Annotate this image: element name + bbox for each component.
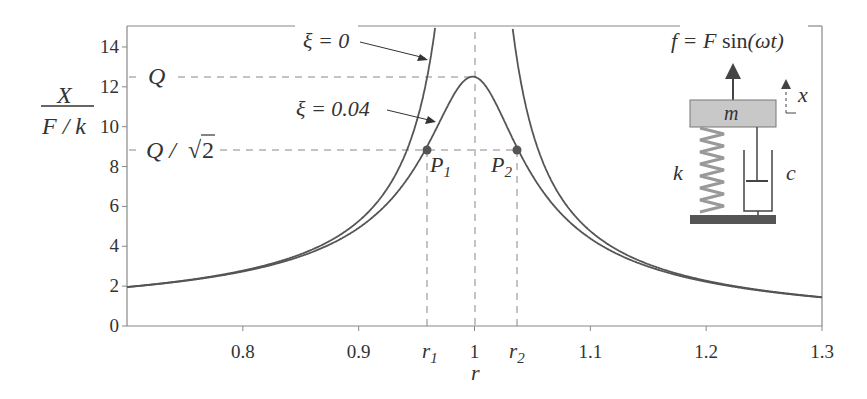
x-tick-label: 1.2 xyxy=(694,341,718,362)
x-label-r1: r1 xyxy=(422,339,438,366)
y-label-denominator: F / k xyxy=(41,113,86,139)
y-tick-label: 12 xyxy=(100,76,119,97)
x-axis-label: r xyxy=(471,360,480,385)
x-tick-label: 1 xyxy=(470,341,480,362)
y-tick-label: 8 xyxy=(110,156,120,177)
curve-label-xi-0: ξ = 0 xyxy=(303,28,349,53)
x-tick-label: 0.9 xyxy=(347,341,371,362)
y-tick-label: 14 xyxy=(100,36,120,57)
spring-label: k xyxy=(673,160,684,185)
y-tick-label: 0 xyxy=(110,315,120,336)
x-label-r2: r2 xyxy=(509,339,525,366)
mass-spring-damper-inset: f = F sin(ωt) m x k c xyxy=(671,28,808,224)
sqrt-symbol: √ xyxy=(188,137,202,163)
label-q-sqrt2: Q / xyxy=(146,137,178,163)
force-label: f = F sin(ωt) xyxy=(671,28,784,53)
spring xyxy=(700,128,724,212)
guide-lines xyxy=(129,32,517,326)
x-tick-label: 0.8 xyxy=(231,341,255,362)
y-tick-label: 6 xyxy=(110,195,120,216)
sqrt-2: 2 xyxy=(202,137,214,163)
mass-label: m xyxy=(724,102,738,124)
y-label-numerator: X xyxy=(56,82,73,108)
x-axis-ticks: 0.80.911.11.21.3 xyxy=(231,326,834,362)
label-p2: P2 xyxy=(490,152,512,180)
x-tick-label: 1.1 xyxy=(578,341,602,362)
label-p1: P1 xyxy=(429,152,451,180)
point-p2 xyxy=(513,146,522,155)
y-tick-label: 2 xyxy=(110,275,120,296)
y-axis-ticks: 02468101214 xyxy=(100,36,127,336)
curve-label-xi-004: ξ = 0.04 xyxy=(296,96,370,121)
y-tick-label: 10 xyxy=(100,116,119,137)
frequency-response-chart: 02468101214 0.80.911.11.21.3 P1 P2 Q Q /… xyxy=(0,0,867,399)
damper-label: c xyxy=(786,160,796,185)
label-q: Q xyxy=(148,63,165,89)
displacement-label: x xyxy=(797,82,808,107)
x-tick-label: 1.3 xyxy=(810,341,834,362)
y-tick-label: 4 xyxy=(110,235,120,256)
